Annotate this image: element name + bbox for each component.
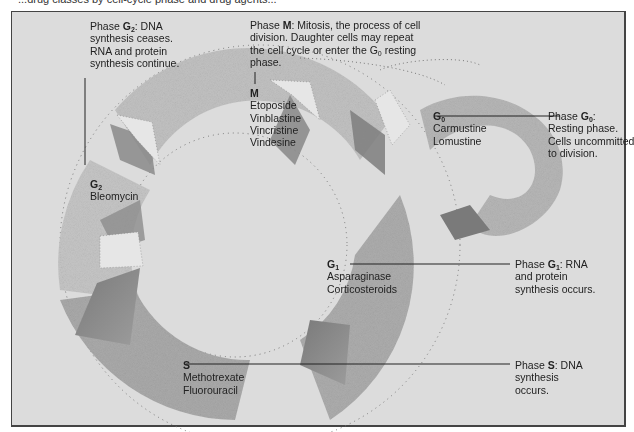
m-drug-label: M Etoposide Vinblastine Vincristine Vind… xyxy=(250,87,301,148)
g0-drug-label: G0 Carmustine Lomustine xyxy=(433,110,487,147)
g0-phase-description: Phase G0: Resting phase. Cells uncommitt… xyxy=(548,110,634,159)
s-drug-label: S Methotrexate Fluorouracil xyxy=(183,359,244,396)
g2-drug-label: G2 Bleomycin xyxy=(90,178,138,203)
g2-phase-description: Phase G2: DNA synthesis ceases. RNA and … xyxy=(90,20,179,69)
g1-drug-label: G1 Asparaginase Corticosteroids xyxy=(327,258,397,295)
m-phase-description: Phase M: Mitosis, the process of cell di… xyxy=(250,19,420,68)
s-phase-description: Phase S: DNA synthesis occurs. xyxy=(515,359,583,396)
g1-phase-description: Phase G1: RNA and protein synthesis occu… xyxy=(515,258,596,295)
